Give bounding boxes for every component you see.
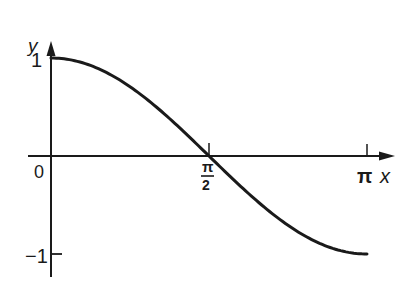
y-tick-label-one: 1 (31, 49, 42, 71)
x-axis-label: x (379, 165, 391, 187)
origin-label: 0 (34, 162, 44, 182)
cosine-chart: y 1 0 −1 π 2 π x (0, 0, 411, 288)
x-tick-label-half-pi-denominator: 2 (202, 177, 210, 193)
x-tick-label-half-pi-numerator: π (202, 158, 214, 175)
y-tick-label-minus-one: −1 (25, 245, 48, 267)
x-axis-arrow-icon (379, 152, 395, 161)
x-tick-label-pi: π (357, 165, 372, 187)
y-axis-arrow-icon (47, 41, 56, 56)
